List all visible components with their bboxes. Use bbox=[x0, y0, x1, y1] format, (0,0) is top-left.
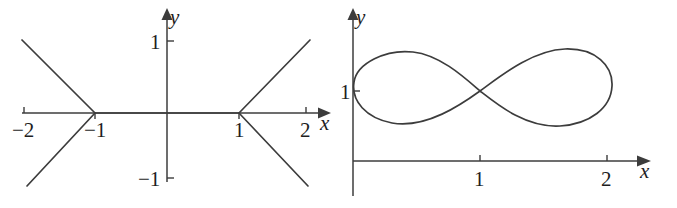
curve-figure-eight bbox=[354, 49, 612, 126]
curve-ray-upper-left bbox=[22, 40, 95, 113]
x-axis-label: x bbox=[319, 111, 330, 135]
plot-right-svg: 1 2 1 x y bbox=[340, 0, 677, 208]
x-tick-label-2: 2 bbox=[601, 167, 612, 191]
y-tick-label-1: 1 bbox=[150, 30, 161, 54]
x-tick-label-minus1: −1 bbox=[84, 118, 106, 142]
y-tick-label-minus1: −1 bbox=[138, 167, 160, 191]
y-axis-left bbox=[162, 8, 173, 182]
plot-panel-right: 1 2 1 x y bbox=[340, 0, 677, 208]
x-tick-label-1: 1 bbox=[474, 167, 485, 191]
y-axis-label: y bbox=[354, 5, 366, 29]
x-axis-label: x bbox=[639, 159, 650, 183]
x-tick-label-1: 1 bbox=[234, 118, 245, 142]
plot-left-svg: −2 −1 1 2 1 −1 x y bbox=[0, 0, 340, 208]
curve-ray-lower-right bbox=[239, 113, 308, 186]
curve-ray-upper-right bbox=[239, 40, 310, 113]
x-tick-label-2: 2 bbox=[300, 118, 311, 142]
y-axis-label: y bbox=[168, 5, 180, 29]
lemniscate-curve bbox=[354, 49, 612, 126]
plot-panel-left: −2 −1 1 2 1 −1 x y bbox=[0, 0, 340, 208]
x-tick-label-minus2: −2 bbox=[12, 118, 34, 142]
y-tick-label-1: 1 bbox=[340, 80, 351, 104]
figure-container: −2 −1 1 2 1 −1 x y bbox=[0, 0, 677, 208]
